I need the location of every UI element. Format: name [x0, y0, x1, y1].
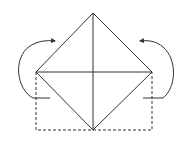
folding-diagram [0, 0, 188, 146]
left-fold-arrow-icon [19, 41, 55, 98]
right-fold-arrow-icon [140, 41, 174, 98]
dashed-rectangle-outline [36, 72, 152, 130]
